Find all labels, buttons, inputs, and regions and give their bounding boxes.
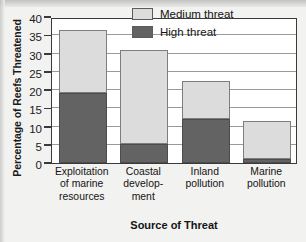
bar-segment-medium-threat <box>182 81 230 119</box>
legend-swatch-high-icon <box>132 26 153 38</box>
category-label-line: Inland <box>174 166 236 178</box>
y-axis-tick-mark <box>44 71 51 73</box>
y-axis-tick-mark <box>44 89 51 91</box>
y-axis-tick-label: 30 <box>0 50 42 62</box>
bar-segment-medium-threat <box>59 30 107 93</box>
bar-3 <box>182 81 230 163</box>
x-axis-category-label: Inlandpollution <box>174 166 236 203</box>
bar-segment-high-threat <box>243 159 291 163</box>
category-label-line: Exploitation <box>51 166 113 178</box>
bar-segment-high-threat <box>182 119 230 163</box>
y-axis-tick-label: 20 <box>0 86 42 98</box>
category-label-line: resources <box>51 191 113 203</box>
x-axis-category-labels: Exploitationof marineresourcesCoastaldev… <box>51 166 297 203</box>
x-axis-category-label: Marinepollution <box>236 166 298 203</box>
x-axis-category-label: Exploitationof marineresources <box>51 166 113 203</box>
y-axis-tick-label: 0 <box>0 159 42 171</box>
y-axis-tick-mark <box>44 108 51 110</box>
category-label-line: ment <box>113 191 175 203</box>
category-label-line: Marine <box>236 166 298 178</box>
y-axis-tick-mark <box>44 35 51 37</box>
x-axis-title: Source of Threat <box>51 219 297 231</box>
y-axis-tick-mark <box>44 162 51 164</box>
legend-label-medium: Medium threat <box>160 8 234 20</box>
y-axis-tick-label: 5 <box>0 141 42 153</box>
legend-item-high-threat: High threat <box>132 23 242 40</box>
y-axis-tick-labels: 0510152025303540 <box>0 18 51 164</box>
chart-figure: Percentage of Reefs Threatened 051015202… <box>0 0 306 242</box>
bar-1 <box>59 30 107 163</box>
bar-4 <box>243 121 291 163</box>
x-axis-category-label: Coastaldevelop-ment <box>113 166 175 203</box>
y-axis-tick-mark <box>44 144 51 146</box>
y-axis-tick-label: 15 <box>0 104 42 116</box>
category-label-line: develop- <box>113 178 175 190</box>
category-label-line: pollution <box>174 178 236 190</box>
y-axis-tick-label: 10 <box>0 123 42 135</box>
chart-legend: Medium threat High threat <box>132 5 242 41</box>
y-axis-tick-label: 25 <box>0 68 42 80</box>
bar-segment-high-threat <box>120 144 168 163</box>
y-axis-tick-mark <box>44 126 51 128</box>
legend-swatch-medium-icon <box>132 8 153 20</box>
y-axis-tick-mark <box>44 53 51 55</box>
legend-label-high: High threat <box>160 26 216 38</box>
legend-item-medium-threat: Medium threat <box>132 5 242 22</box>
category-label-line: pollution <box>236 178 298 190</box>
bar-2 <box>120 50 168 163</box>
bar-segment-high-threat <box>59 93 107 163</box>
category-label-line: of marine <box>51 178 113 190</box>
bar-segment-medium-threat <box>120 50 168 144</box>
y-axis-tick-label: 40 <box>0 13 42 25</box>
y-axis-tick-label: 35 <box>0 31 42 43</box>
category-label-line: Coastal <box>113 166 175 178</box>
y-axis-tick-mark <box>44 16 51 18</box>
bar-segment-medium-threat <box>243 121 291 159</box>
